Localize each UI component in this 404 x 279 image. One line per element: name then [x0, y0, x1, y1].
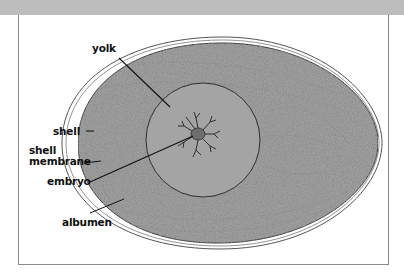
label-shell: shell — [53, 126, 80, 137]
label-embryo: embryo — [47, 176, 91, 187]
label-albumen: albumen — [62, 217, 112, 228]
label-yolk: yolk — [92, 43, 116, 54]
label-shell-membrane-line2: membrane — [29, 156, 91, 167]
egg-diagram — [0, 0, 404, 279]
